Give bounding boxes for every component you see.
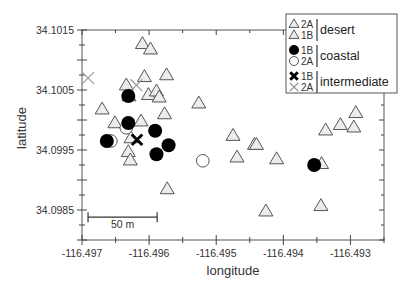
filled-circle-marker-icon xyxy=(162,138,176,152)
legend-group-label: intermediate xyxy=(320,75,389,89)
legend-code: 1B xyxy=(301,30,314,41)
legend-code: 1B xyxy=(301,45,314,56)
legend-code: 2A xyxy=(301,82,314,93)
legend-code: 1B xyxy=(301,71,314,82)
triangle-marker-icon xyxy=(319,123,333,135)
filled-circle-marker-icon xyxy=(149,147,163,161)
x-axis-title: longitude xyxy=(207,263,260,278)
triangle-marker-icon xyxy=(160,182,174,194)
triangle-marker-icon xyxy=(121,145,135,157)
y-tick-label: 34.1015 xyxy=(36,24,74,36)
x-tick-label: -116.495 xyxy=(196,247,237,259)
scatter-chart: -116.497-116.496-116.495-116.494-116.493… xyxy=(0,0,412,290)
x-marker-icon xyxy=(82,72,94,84)
triangle-marker-icon xyxy=(226,128,240,140)
triangle-marker-icon xyxy=(192,96,206,108)
filled-circle-marker-icon xyxy=(289,45,299,55)
filled-circle-marker-icon xyxy=(100,134,114,148)
legend-code: 2A xyxy=(301,19,314,30)
y-tick-label: 34.0995 xyxy=(36,144,74,156)
x-marker-icon xyxy=(130,79,142,91)
open-circle-marker-icon xyxy=(197,155,210,168)
triangle-marker-icon xyxy=(333,118,347,130)
open-circle-marker-icon xyxy=(290,57,299,66)
filled-circle-marker-icon xyxy=(307,158,321,172)
triangle-marker-icon xyxy=(270,152,284,164)
y-tick-label: 34.1005 xyxy=(36,84,74,96)
filled-circle-marker-icon xyxy=(121,89,135,103)
legend-group-label: coastal xyxy=(320,49,360,63)
scale-bar: 50 m xyxy=(88,212,157,230)
x-tick-label: -116.494 xyxy=(263,247,304,259)
triangle-marker-icon xyxy=(134,114,148,126)
filled-circle-marker-icon xyxy=(148,124,162,138)
y-axis-title: latitude xyxy=(14,107,29,149)
triangle-marker-icon xyxy=(158,107,172,119)
x-tick-label: -116.493 xyxy=(330,247,371,259)
scale-bar-label: 50 m xyxy=(111,218,135,230)
triangle-marker-icon xyxy=(259,204,273,216)
triangle-marker-icon xyxy=(347,120,361,132)
triangle-marker-icon xyxy=(230,150,244,162)
x-tick-label: -116.496 xyxy=(129,247,170,259)
legend-code: 2A xyxy=(301,56,314,67)
x-tick-label: -116.497 xyxy=(62,247,103,259)
triangle-marker-icon xyxy=(95,102,109,114)
triangle-marker-icon xyxy=(314,199,328,211)
triangle-marker-icon xyxy=(349,106,363,118)
y-tick-label: 34.0985 xyxy=(36,204,74,216)
triangle-marker-icon xyxy=(160,68,174,80)
filled-circle-marker-icon xyxy=(121,116,135,130)
legend-group-label: desert xyxy=(320,23,355,37)
legend: 2A1Bdesert1B2Acoastal1B2Aintermediate xyxy=(286,14,397,93)
triangle-marker-icon xyxy=(137,70,151,82)
